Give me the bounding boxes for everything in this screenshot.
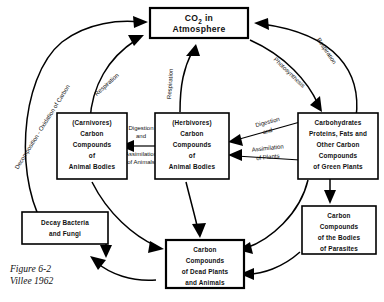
node-green-plants-line5: of Green Plants bbox=[313, 163, 363, 170]
edge-dead-matter-to-decay bbox=[90, 256, 156, 280]
node-dead-matter-line4: and Animals bbox=[185, 279, 225, 286]
edge-label-digestion-animals-1: Digestion bbox=[128, 125, 153, 131]
node-decay-bacteria-line1: Decay Bacteria bbox=[41, 219, 89, 227]
edge-parasites-to-dead-matter bbox=[240, 252, 300, 280]
node-parasites-line1: Carbon bbox=[327, 212, 350, 219]
node-herbivores-line1: (Herbivores) bbox=[172, 119, 211, 127]
node-herbivores: (Herbivores) Carbon Compounds of Animal … bbox=[155, 113, 229, 179]
carbon-cycle-diagram: Decomposition - Oxidation of Carbon Resp… bbox=[0, 0, 384, 302]
edge-label-respiration-center: Respiration bbox=[166, 69, 174, 100]
edge-label-photosynthesis: Photosynthesis bbox=[273, 56, 306, 89]
node-herbivores-line4: of bbox=[189, 152, 196, 159]
edge-photosynthesis-to-plants bbox=[250, 40, 322, 112]
node-carnivores-line3: Compounds bbox=[73, 141, 112, 149]
edge-label-respiration-right: Respiration bbox=[316, 37, 338, 66]
edge-label-assimilation-plants-1: Assimilation bbox=[252, 143, 284, 152]
edge-plants-to-parasites bbox=[324, 178, 336, 204]
node-parasites-line3: of the Bodies bbox=[318, 234, 361, 241]
node-green-plants-line4: Compounds bbox=[319, 152, 358, 160]
node-herbivores-line5: Animal Bodies bbox=[169, 163, 216, 170]
edge-herbivores-to-dead-matter bbox=[186, 182, 206, 238]
edge-label-digestion-plants-2: and bbox=[262, 127, 273, 135]
node-carnivores-line2: Carbon bbox=[80, 130, 103, 137]
edge-label-assimilation-animals-2: of Animals bbox=[127, 159, 155, 165]
node-herbivores-line2: Carbon bbox=[180, 130, 203, 137]
node-green-plants-line1: Carbohydrates bbox=[314, 119, 361, 127]
figure-caption-line2: Villee 1962 bbox=[10, 275, 53, 286]
node-dead-matter-line3: of Dead Plants bbox=[182, 268, 229, 275]
node-herbivores-line3: Compounds bbox=[173, 141, 212, 149]
node-atmosphere-line2: Atmosphere bbox=[172, 24, 225, 34]
edge-label-digestion-animals-2: and bbox=[136, 133, 146, 139]
edge-label-assimilation-animals-1: Assimilation bbox=[125, 151, 157, 157]
edge-label-assimilation-plants-2: of Plants bbox=[256, 153, 280, 161]
node-parasites-line2: Compounds bbox=[320, 223, 359, 231]
node-green-plants: Carbohydrates Proteins, Fats and Other C… bbox=[298, 113, 378, 179]
figure-caption-line1: Figure 6-2 bbox=[9, 263, 51, 274]
node-decay-bacteria: Decay Bacteria and Fungi bbox=[22, 212, 108, 244]
edge-respiration-right-to-atmosphere bbox=[254, 18, 357, 118]
carbon-cycle-figure: Decomposition - Oxidation of Carbon Resp… bbox=[0, 0, 384, 302]
node-dead-matter-line2: Compounds bbox=[186, 257, 225, 265]
node-green-plants-line3: Other Carbon bbox=[317, 141, 360, 148]
node-carnivores: (Carnivores) Carbon Compounds of Animal … bbox=[57, 113, 127, 179]
node-carnivores-line4: of bbox=[89, 152, 96, 159]
node-decay-bacteria-line2: and Fungi bbox=[49, 230, 81, 238]
node-parasites-line4: of Parasites bbox=[320, 245, 358, 252]
edge-plants-to-dead-matter bbox=[238, 180, 308, 254]
node-carnivores-line5: Animal Bodies bbox=[69, 163, 116, 170]
node-green-plants-line2: Proteins, Fats and bbox=[309, 130, 367, 138]
node-dead-matter-line1: Carbon bbox=[193, 246, 216, 253]
edge-respiration-center-to-atmosphere bbox=[180, 44, 200, 112]
node-carnivores-line1: (Carnivores) bbox=[72, 119, 111, 127]
node-dead-matter: Carbon Compounds of Dead Plants and Anim… bbox=[166, 240, 244, 288]
node-parasites: Carbon Compounds of the Bodies of Parasi… bbox=[302, 206, 376, 254]
edge-label-digestion-plants-1: Digestion bbox=[255, 116, 281, 128]
node-atmosphere: CO2 in Atmosphere bbox=[150, 8, 248, 38]
